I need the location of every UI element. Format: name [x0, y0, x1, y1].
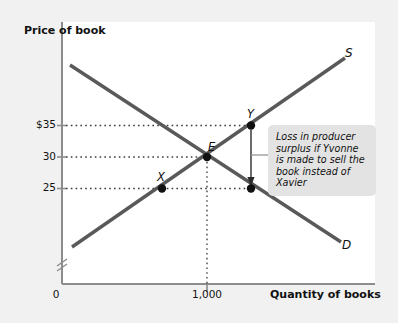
figure-container: Price of book Quantity of books $35 30 2…: [0, 0, 398, 323]
y-axis-title: Price of book: [24, 24, 76, 37]
supply-curve-label: S: [345, 46, 353, 60]
y-tick-label-35: $35: [20, 118, 56, 130]
point-marker-demand-low: [247, 184, 255, 192]
point-marker-x: [158, 184, 166, 192]
x-tick-label-1000: 1,000: [182, 288, 232, 300]
y-tick-label-25: 25: [20, 181, 56, 193]
point-x-label: X: [157, 170, 165, 184]
point-marker-equilibrium: [203, 153, 211, 161]
x-axis-title: Quantity of books: [270, 288, 381, 301]
callout-annotation: Loss in producer surplus if Yvonne is ma…: [268, 125, 376, 196]
point-marker-y: [247, 121, 255, 129]
point-y-label: Y: [247, 107, 254, 121]
y-tick-label-30: 30: [20, 150, 56, 162]
equilibrium-point-label: E: [208, 140, 215, 154]
x-tick-label-0: 0: [46, 288, 66, 300]
demand-curve-label: D: [342, 238, 351, 252]
